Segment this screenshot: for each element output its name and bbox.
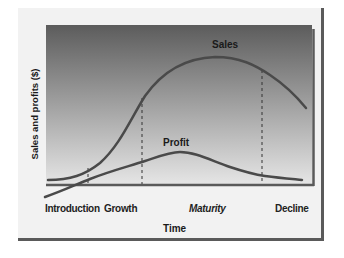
stage-label-growth: Growth	[104, 203, 137, 214]
stage-label-decline: Decline	[275, 203, 309, 214]
product-life-cycle-chart: Sales Profit Introduction Growth Maturit…	[0, 0, 344, 258]
sales-label: Sales	[212, 39, 239, 50]
profit-label: Profit	[163, 137, 190, 148]
plot-area	[46, 25, 312, 185]
y-axis-title: Sales and profits ($)	[29, 69, 40, 160]
stage-label-maturity: Maturity	[189, 203, 226, 214]
x-axis-title: Time	[163, 223, 187, 234]
stage-label-introduction: Introduction	[45, 203, 100, 214]
